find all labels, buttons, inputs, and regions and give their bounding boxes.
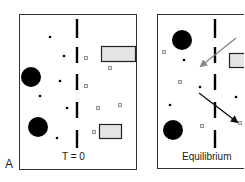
- black-arrow-icon: [199, 93, 237, 122]
- panel-label: A: [5, 157, 13, 171]
- large-rectangles: [100, 47, 136, 139]
- large-rectangles: [230, 54, 245, 68]
- panel-t0: [20, 15, 137, 170]
- small-squares: [85, 57, 122, 134]
- panel-border: [158, 15, 245, 169]
- large-particles: [163, 30, 192, 140]
- large-particles: [21, 67, 48, 137]
- caption-t0: T = 0: [62, 151, 85, 162]
- panel-equilibrium: [158, 15, 245, 169]
- caption-equilibrium: Equilibrium: [182, 151, 231, 162]
